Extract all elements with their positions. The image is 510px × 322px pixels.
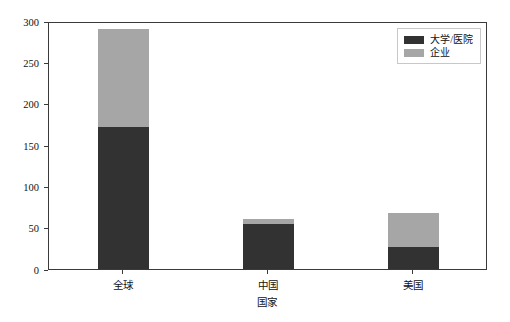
bar-segment-enterprise[interactable] <box>388 213 439 247</box>
y-axis: 300 250 200 150 100 50 0 <box>0 22 48 270</box>
stacked-bar-chart-figure: 300 250 200 150 100 50 0 研究机构数量（个） <box>0 0 510 322</box>
y-tick-label: 250 <box>23 56 39 71</box>
x-axis: 全球 中国 美国 <box>48 270 487 294</box>
legend-label: 大学/医院 <box>430 33 473 46</box>
legend-swatch-university-hospital <box>404 36 424 44</box>
x-tick-mark <box>267 270 268 274</box>
plot-area: 大学/医院 企业 <box>48 22 487 270</box>
bar-china[interactable] <box>243 219 294 269</box>
legend: 大学/医院 企业 <box>397 28 481 64</box>
y-tick-label: 200 <box>23 97 39 112</box>
y-axis-title: 研究机构数量（个） <box>4 270 24 322</box>
bar-global[interactable] <box>98 29 149 269</box>
legend-label: 企业 <box>430 46 450 59</box>
y-tick-label: 300 <box>23 15 39 30</box>
bar-segment-enterprise[interactable] <box>98 29 149 127</box>
bar-segment-university-hospital[interactable] <box>98 127 149 269</box>
x-axis-title: 国家 <box>48 294 487 309</box>
x-tick-label: 美国 <box>373 277 453 292</box>
y-tick-label: 100 <box>23 180 39 195</box>
legend-swatch-enterprise <box>404 49 424 57</box>
bar-segment-university-hospital[interactable] <box>243 224 294 269</box>
x-tick-label: 全球 <box>83 277 163 292</box>
bar-usa[interactable] <box>388 213 439 269</box>
legend-entry-enterprise[interactable]: 企业 <box>404 46 473 59</box>
x-tick-label: 中国 <box>228 277 308 292</box>
x-tick-mark <box>122 270 123 274</box>
x-tick-mark <box>412 270 413 274</box>
y-tick-label: 150 <box>23 139 39 154</box>
legend-entry-university-hospital[interactable]: 大学/医院 <box>404 33 473 46</box>
bar-segment-university-hospital[interactable] <box>388 247 439 269</box>
y-tick-label: 50 <box>29 221 40 236</box>
y-tick-label: 0 <box>34 263 39 278</box>
